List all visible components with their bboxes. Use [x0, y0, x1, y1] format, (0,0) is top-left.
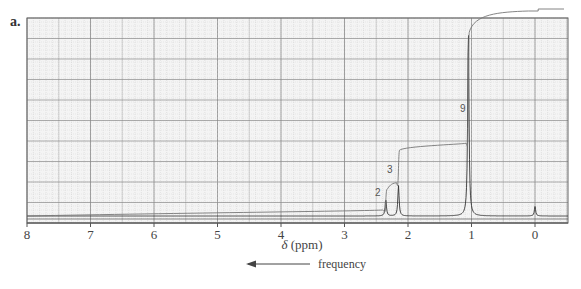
frequency-arrow	[246, 261, 310, 268]
x-tick-label: 3	[341, 227, 348, 243]
nmr-figure: a. 876543210 δ (ppm) frequency 2 3 9	[0, 0, 581, 289]
x-tick-label: 8	[24, 227, 31, 243]
x-tick-label: 5	[214, 227, 221, 243]
x-tick-label: 6	[151, 227, 158, 243]
x-tick-label: 0	[532, 227, 539, 243]
integral-label-9: 9	[460, 103, 466, 114]
x-tick-label: 1	[468, 227, 475, 243]
x-tick-label: 2	[405, 227, 412, 243]
integral-label-2: 2	[375, 187, 381, 198]
x-axis-label: δ (ppm)	[281, 237, 322, 253]
x-axis	[27, 223, 568, 227]
delta-symbol: δ	[281, 237, 287, 252]
grid	[27, 18, 568, 223]
frequency-label: frequency	[318, 257, 366, 272]
unit-label: (ppm)	[291, 237, 323, 252]
integral-label-3: 3	[387, 164, 393, 175]
x-tick-label: 7	[87, 227, 94, 243]
